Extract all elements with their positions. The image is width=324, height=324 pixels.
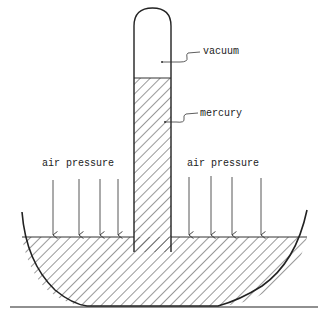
- tube-mercury: [134, 78, 171, 252]
- air-pressure-right-label: air pressure: [187, 158, 259, 169]
- vacuum-label: vacuum: [203, 46, 239, 57]
- air-pressure-arrows-left: [53, 179, 118, 235]
- barometer-diagram: vacuum mercury air pressure air pressure: [0, 0, 324, 324]
- vacuum-callout: vacuum: [161, 46, 239, 63]
- mercury-label: mercury: [200, 108, 242, 119]
- air-pressure-left-label: air pressure: [42, 158, 114, 169]
- mercury-callout: mercury: [164, 108, 242, 123]
- air-pressure-arrows-right: [189, 176, 261, 235]
